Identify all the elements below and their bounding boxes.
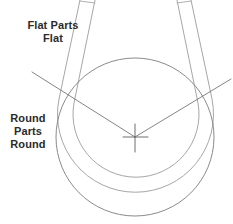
round-parts-label-line-3: Round (2, 138, 54, 151)
round-parts-label-line-1: Round (2, 112, 54, 125)
round-parts-label: Round Parts Round (2, 112, 54, 151)
left-arm-cap (80, 1, 95, 3)
inner-contour-path (73, 0, 199, 177)
flat-parts-label-line-2: Flat (16, 32, 90, 45)
center-crosshair-icon (123, 124, 148, 152)
angle-construction-lines (32, 72, 231, 137)
flat-parts-label-line-1: Flat Parts (16, 19, 90, 32)
angle-line-right (135, 79, 231, 137)
diagram-canvas: Flat Parts Flat Round Parts Round (0, 0, 233, 224)
flat-parts-label: Flat Parts Flat (16, 19, 90, 45)
right-arm-cap (177, 1, 191, 3)
round-parts-label-line-2: Parts (2, 125, 54, 138)
